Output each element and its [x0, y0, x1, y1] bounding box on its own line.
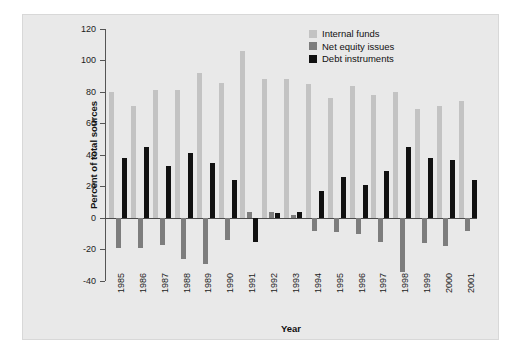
y-tick-mark — [100, 281, 105, 282]
plot-area: 120100806040200-20-40 Percent of total s… — [105, 29, 477, 281]
chart-figure: Internal funds Net equity issues Debt in… — [22, 14, 499, 340]
bar-net-equity-issues-1994 — [312, 218, 317, 231]
y-tick-mark — [100, 155, 105, 156]
x-tick-label-1999: 1999 — [423, 273, 432, 293]
x-tick-cell-1989: 1989 — [194, 283, 216, 325]
bar-debt-instruments-1986 — [144, 147, 149, 218]
x-tick-label-1988: 1988 — [183, 273, 192, 293]
bar-debt-instruments-1999 — [428, 158, 433, 218]
bar-group-1997 — [368, 29, 390, 281]
bar-debt-instruments-1994 — [319, 191, 324, 218]
bar-internal-funds-1985 — [109, 92, 114, 218]
bar-group-1995 — [324, 29, 346, 281]
x-tick-cell-1997: 1997 — [369, 283, 391, 325]
bar-internal-funds-1999 — [415, 109, 420, 218]
y-axis-title: Percent of total sources — [88, 101, 99, 209]
bar-net-equity-issues-2001 — [465, 218, 470, 231]
bar-internal-funds-1997 — [371, 95, 376, 218]
x-tick-cell-1986: 1986 — [128, 283, 150, 325]
bar-net-equity-issues-2000 — [443, 218, 448, 246]
y-tick-mark — [100, 29, 105, 30]
bar-group-1993 — [281, 29, 303, 281]
bar-group-1998 — [390, 29, 412, 281]
y-tick-label: -20 — [83, 245, 100, 254]
x-axis-title: Year — [105, 323, 477, 334]
x-tick-cell-1988: 1988 — [172, 283, 194, 325]
x-tick-label-1987: 1987 — [161, 273, 170, 293]
x-tick-cell-1993: 1993 — [281, 283, 303, 325]
bar-internal-funds-1994 — [306, 84, 311, 218]
x-tick-cell-1995: 1995 — [325, 283, 347, 325]
x-tick-label-1990: 1990 — [226, 273, 235, 293]
bar-debt-instruments-1989 — [210, 163, 215, 218]
bar-group-1985 — [106, 29, 128, 281]
x-tick-cell-1999: 1999 — [412, 283, 434, 325]
x-tick-label-1995: 1995 — [336, 273, 345, 293]
x-axis-tick-labels: 1985198619871988198919901991199219931994… — [106, 283, 478, 325]
bar-internal-funds-1992 — [262, 79, 267, 218]
x-tick-label-2000: 2000 — [445, 273, 454, 293]
bar-net-equity-issues-1992 — [269, 212, 274, 218]
x-tick-cell-1996: 1996 — [347, 283, 369, 325]
bar-internal-funds-1986 — [131, 106, 136, 218]
x-tick-label-1992: 1992 — [270, 273, 279, 293]
x-tick-label-1996: 1996 — [358, 273, 367, 293]
bar-group-2000 — [433, 29, 455, 281]
bar-internal-funds-1989 — [197, 73, 202, 218]
bar-debt-instruments-1987 — [166, 166, 171, 218]
bar-debt-instruments-1993 — [297, 212, 302, 218]
bar-group-1987 — [150, 29, 172, 281]
bar-debt-instruments-1997 — [384, 171, 389, 218]
x-tick-label-1998: 1998 — [401, 273, 410, 293]
bar-debt-instruments-1985 — [122, 158, 127, 218]
bar-internal-funds-1990 — [219, 83, 224, 218]
bar-net-equity-issues-1995 — [334, 218, 339, 232]
x-tick-cell-1987: 1987 — [150, 283, 172, 325]
x-tick-label-2001: 2001 — [467, 273, 476, 293]
bar-group-1999 — [412, 29, 434, 281]
bar-group-1996 — [346, 29, 368, 281]
y-tick-mark — [100, 92, 105, 93]
x-tick-label-1997: 1997 — [379, 273, 388, 293]
bar-net-equity-issues-1987 — [160, 218, 165, 245]
bar-internal-funds-1998 — [393, 92, 398, 218]
x-tick-label-1991: 1991 — [248, 273, 257, 293]
bar-internal-funds-1995 — [328, 98, 333, 218]
y-tick-mark — [100, 123, 105, 124]
bar-group-1994 — [302, 29, 324, 281]
bar-debt-instruments-1991 — [253, 218, 258, 242]
x-tick-cell-1991: 1991 — [237, 283, 259, 325]
y-tick-mark — [100, 60, 105, 61]
bar-internal-funds-2001 — [459, 101, 464, 218]
bar-group-2001 — [455, 29, 477, 281]
bar-net-equity-issues-1986 — [138, 218, 143, 248]
bars-layer — [106, 29, 477, 281]
bar-net-equity-issues-1996 — [356, 218, 361, 234]
y-tick-mark — [100, 218, 105, 219]
bar-net-equity-issues-1988 — [181, 218, 186, 259]
bar-group-1986 — [128, 29, 150, 281]
y-tick-label: 120 — [81, 25, 100, 34]
bar-net-equity-issues-1991 — [247, 212, 252, 218]
y-tick-mark — [100, 186, 105, 187]
bar-internal-funds-1991 — [240, 51, 245, 218]
bar-net-equity-issues-1993 — [291, 215, 296, 218]
bar-debt-instruments-1988 — [188, 153, 193, 218]
bar-internal-funds-1988 — [175, 90, 180, 218]
bar-internal-funds-1996 — [350, 86, 355, 218]
bar-net-equity-issues-1990 — [225, 218, 230, 240]
bar-internal-funds-1987 — [153, 90, 158, 218]
x-tick-cell-2001: 2001 — [456, 283, 478, 325]
y-tick-label: 0 — [91, 214, 100, 223]
bar-net-equity-issues-1998 — [400, 218, 405, 272]
bar-group-1991 — [237, 29, 259, 281]
bar-group-1988 — [171, 29, 193, 281]
bar-debt-instruments-1998 — [406, 147, 411, 218]
x-tick-label-1989: 1989 — [204, 273, 213, 293]
bar-group-1990 — [215, 29, 237, 281]
x-tick-cell-1992: 1992 — [259, 283, 281, 325]
bar-debt-instruments-1990 — [232, 180, 237, 218]
x-tick-label-1993: 1993 — [292, 273, 301, 293]
bar-net-equity-issues-1989 — [203, 218, 208, 264]
bar-debt-instruments-1992 — [275, 213, 280, 218]
